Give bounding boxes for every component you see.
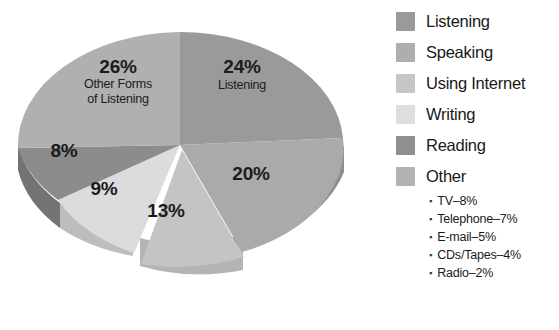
legend-item-writing[interactable]: Writing (396, 99, 559, 130)
chart-legend: Listening Speaking Using Internet Writin… (396, 6, 559, 326)
legend-subitem-radio-label: Radio–2% (437, 266, 493, 280)
legend-item-speaking[interactable]: Speaking (396, 37, 559, 68)
legend-label-other: Other (426, 167, 466, 186)
slice-name-other-forms-line1: Other Forms (54, 77, 182, 92)
legend-swatch-using-internet (396, 74, 415, 93)
pie-chart-graphic (0, 0, 382, 330)
legend-swatch-other (396, 167, 415, 186)
legend-label-using-internet: Using Internet (426, 74, 525, 93)
legend-other-breakdown: ▪ TV–8% ▪ Telephone–7% ▪ E-mail–5% ▪ CDs… (396, 194, 559, 284)
legend-swatch-reading (396, 136, 415, 155)
slice-pct-other-forms: 26% (54, 56, 182, 77)
slice-pct-using-internet: 13% (137, 200, 195, 221)
bullet-square-icon: ▪ (429, 215, 432, 224)
legend-item-reading[interactable]: Reading (396, 130, 559, 161)
slice-name-other-forms-line2: of Listening (54, 92, 182, 107)
slice-label-speaking: 20% (222, 163, 280, 184)
legend-subitem-email: ▪ E-mail–5% (429, 230, 559, 248)
legend-subitem-telephone-label: Telephone–7% (437, 212, 517, 226)
legend-swatch-writing (396, 105, 415, 124)
pie-chart-figure: 24% Listening 26% Other Forms of Listeni… (0, 0, 559, 330)
legend-subitem-radio: ▪ Radio–2% (429, 266, 559, 284)
legend-subitem-tv-label: TV–8% (437, 194, 477, 208)
legend-subitem-tv: ▪ TV–8% (429, 194, 559, 212)
legend-subitem-email-label: E-mail–5% (437, 230, 496, 244)
legend-item-using-internet[interactable]: Using Internet (396, 68, 559, 99)
pie-chart-area: 24% Listening 26% Other Forms of Listeni… (0, 0, 382, 330)
legend-label-speaking: Speaking (426, 43, 493, 62)
legend-subitem-telephone: ▪ Telephone–7% (429, 212, 559, 230)
slice-pct-reading: 8% (38, 140, 90, 161)
legend-item-listening[interactable]: Listening (396, 6, 559, 37)
legend-label-writing: Writing (426, 105, 475, 124)
bullet-square-icon: ▪ (429, 251, 432, 260)
slice-label-reading: 8% (38, 140, 90, 161)
slice-label-writing: 9% (78, 178, 130, 199)
bullet-square-icon: ▪ (429, 197, 432, 206)
slice-pct-speaking: 20% (222, 163, 280, 184)
legend-label-reading: Reading (426, 136, 486, 155)
slice-pct-listening: 24% (196, 56, 288, 77)
bullet-square-icon: ▪ (429, 269, 432, 278)
legend-swatch-speaking (396, 43, 415, 62)
legend-swatch-listening (396, 12, 415, 31)
bullet-square-icon: ▪ (429, 233, 432, 242)
slice-label-listening: 24% Listening (196, 56, 288, 92)
legend-subitem-cds-tapes: ▪ CDs/Tapes–4% (429, 248, 559, 266)
legend-subitem-cds-tapes-label: CDs/Tapes–4% (437, 248, 521, 262)
slice-label-other-forms-of-listening: 26% Other Forms of Listening (54, 56, 182, 107)
legend-label-listening: Listening (426, 12, 490, 31)
slice-label-using-internet: 13% (137, 200, 195, 221)
slice-pct-writing: 9% (78, 178, 130, 199)
slice-name-listening: Listening (196, 78, 288, 92)
legend-item-other[interactable]: Other (396, 161, 559, 192)
